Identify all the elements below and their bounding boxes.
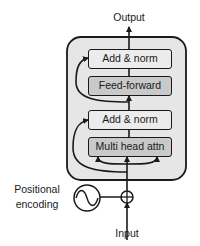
feed-forward-block: Feed-forward [88,76,172,96]
multi-head-attn-block: Multi head attn [88,137,172,157]
input-label: Input [102,227,152,239]
transformer-encoder-diagram: Add & norm Feed-forward Add & norm Multi… [0,0,200,246]
positional-label-line1: Positional [2,183,72,195]
add-norm-block-top: Add & norm [88,49,172,69]
positional-label-line2: encoding [2,198,72,210]
output-label: Output [104,11,154,23]
add-norm-block-bottom: Add & norm [88,110,172,130]
